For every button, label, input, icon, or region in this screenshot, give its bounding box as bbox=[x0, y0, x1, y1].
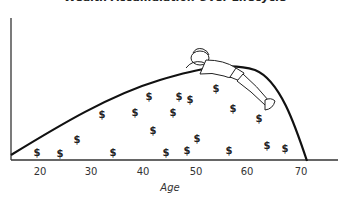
dollar-icon: $ bbox=[282, 143, 289, 154]
x-tick-20: 20 bbox=[34, 166, 47, 177]
x-tick-70: 70 bbox=[295, 166, 308, 177]
dollar-icon: $ bbox=[176, 91, 183, 102]
dollar-icon: $ bbox=[230, 103, 237, 114]
dollar-icon: $ bbox=[194, 133, 201, 144]
dollar-icon: $ bbox=[226, 145, 233, 156]
dollar-icon: $ bbox=[184, 145, 191, 156]
dollar-icon: $ bbox=[99, 109, 106, 120]
dollar-icon: $ bbox=[110, 147, 117, 158]
x-tick-60: 60 bbox=[241, 166, 254, 177]
dollar-icon: $ bbox=[34, 147, 41, 158]
dollar-icon: $ bbox=[57, 148, 64, 159]
wealth-lifecycle-diagram: Wealth Accumulation Over Lifecycle $ $ bbox=[0, 0, 351, 204]
x-axis-label: Age bbox=[160, 182, 179, 193]
dollar-icon: $ bbox=[146, 91, 153, 102]
x-tick-30: 30 bbox=[85, 166, 98, 177]
dollar-icon: $ bbox=[163, 147, 170, 158]
x-tick-40: 40 bbox=[137, 166, 150, 177]
x-tick-50: 50 bbox=[190, 166, 203, 177]
dollar-icon: $ bbox=[256, 113, 263, 124]
dollar-icon: $ bbox=[187, 94, 194, 105]
reclining-person-illustration bbox=[186, 49, 275, 111]
dollar-icon: $ bbox=[213, 83, 220, 94]
dollar-icon: $ bbox=[74, 134, 81, 145]
dollar-icon: $ bbox=[264, 140, 271, 151]
dollar-icon: $ bbox=[132, 107, 139, 118]
dollar-icon: $ bbox=[150, 125, 157, 136]
dollar-icon: $ bbox=[170, 107, 177, 118]
